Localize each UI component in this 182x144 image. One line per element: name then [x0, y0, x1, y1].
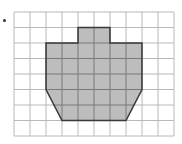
- grid-figure: [0, 0, 182, 144]
